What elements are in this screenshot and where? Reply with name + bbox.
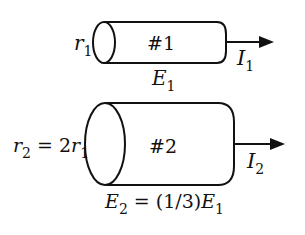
cylinder-1-label: #1	[147, 32, 175, 54]
current-arrow-2	[234, 138, 285, 150]
current-arrow-1	[226, 36, 274, 48]
field-1-label: E1	[151, 66, 176, 94]
diagram-canvas: #1 r1 E1 I1 #2 r2 = 2r1 E2 = (1/3)E1 I2	[0, 0, 305, 235]
radius-1-label: r1	[74, 31, 92, 59]
cylinder-2-label: #2	[149, 135, 177, 157]
field-2-label: E2 = (1/3)E1	[104, 190, 224, 217]
current-1-label: I1	[236, 46, 254, 74]
current-2-label: I2	[246, 149, 264, 177]
radius-2-label: r2 = 2r1	[13, 134, 89, 161]
